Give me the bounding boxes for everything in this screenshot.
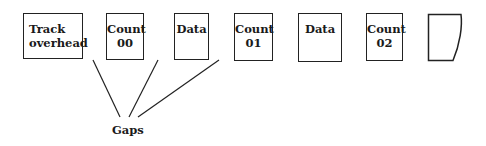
gap-connector-1 [93,60,120,117]
gap-connector-3 [138,60,219,117]
count-01-label-line2: 01 [235,36,272,50]
track-overhead-label-line1: Track [29,22,82,36]
count-00-box: Count 00 [106,13,144,60]
track-overhead-label-line2: overhead [29,36,82,50]
gap-connector-2 [129,60,158,117]
count-01-label-line1: Count [235,22,272,36]
data-1-box: Data [174,13,209,60]
data-1-label: Data [175,22,208,36]
count-01-box: Count 01 [234,13,273,61]
count-00-label-line2: 00 [107,36,143,50]
count-02-label-line2: 02 [367,36,402,50]
count-00-label-line1: Count [107,22,143,36]
track-overhead-box: Track overhead [23,13,83,59]
gaps-label: Gaps [112,123,144,137]
data-2-label: Data [299,22,341,36]
track-layout-diagram: Track overhead Count 00 Data Count 01 Da… [0,0,486,146]
partial-record-box [429,15,462,61]
count-02-label-line1: Count [367,22,402,36]
count-02-box: Count 02 [366,13,403,61]
data-2-box: Data [298,13,342,62]
